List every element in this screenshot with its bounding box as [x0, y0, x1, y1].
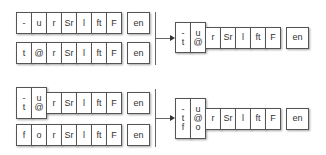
token-cell: r — [205, 108, 221, 130]
stacked-cell: - t f — [175, 98, 191, 139]
token-cell: ft — [250, 108, 266, 130]
token-cell: r — [205, 27, 221, 49]
token-cell: l — [76, 42, 92, 64]
token-cell: - — [16, 12, 32, 34]
token: f — [182, 123, 185, 132]
token-cell: Sr — [220, 108, 236, 130]
token-cell: Sr — [61, 42, 77, 64]
panel1-input-row2: t @ r Sr l ft F en — [17, 42, 150, 64]
stacked-cell: - t — [175, 22, 191, 53]
token-cell: l — [76, 12, 92, 34]
token-cell: o — [31, 124, 47, 146]
token-cell: F — [265, 108, 281, 130]
token-cell: t — [16, 42, 32, 64]
token-cell: r — [46, 12, 62, 34]
token-cell: r — [46, 124, 62, 146]
token-cell: l — [76, 124, 92, 146]
stacked-cell: - t — [16, 87, 32, 119]
token-cell: ft — [250, 27, 266, 49]
token-cell: l — [235, 108, 251, 130]
token-cell: Sr — [61, 12, 77, 34]
stacked-cell: u @ — [31, 87, 47, 119]
token-cell: Sr — [61, 124, 77, 146]
token-cell: r — [46, 92, 62, 114]
token: @ — [34, 103, 43, 112]
token: t — [23, 103, 26, 112]
token-cell: l — [235, 27, 251, 49]
end-cell: en — [286, 108, 309, 130]
token: @ — [193, 38, 202, 47]
token-cell: ft — [91, 124, 107, 146]
end-cell: en — [127, 92, 150, 114]
end-cell: en — [127, 124, 150, 146]
stacked-cell: u @ — [190, 22, 206, 53]
token-cell: f — [16, 124, 32, 146]
token-cell: F — [265, 27, 281, 49]
end-cell: en — [127, 12, 150, 34]
panel1-input-row1: - u r Sr l ft F en — [17, 12, 150, 34]
panel2-input-row1: - t u @ r Sr l ft F en — [17, 87, 150, 119]
token-cell: F — [106, 92, 122, 114]
token-cell: Sr — [61, 92, 77, 114]
panel2-output-row: - t f u @ o r Sr l ft F en — [176, 98, 309, 139]
token-cell: ft — [91, 42, 107, 64]
end-cell: en — [127, 42, 150, 64]
merge-line — [155, 38, 170, 39]
token-cell: Sr — [220, 27, 236, 49]
token-cell: F — [106, 124, 122, 146]
token-cell: ft — [91, 12, 107, 34]
token-cell: r — [46, 42, 62, 64]
merge-line — [155, 118, 170, 119]
token: o — [195, 123, 200, 132]
token-cell: F — [106, 42, 122, 64]
token-cell: F — [106, 12, 122, 34]
panel2-input-row2: f o r Sr l ft F en — [17, 124, 150, 146]
panel1-output-row: - t u @ r Sr l ft F en — [176, 22, 309, 53]
token: t — [182, 38, 185, 47]
token-cell: l — [76, 92, 92, 114]
token-cell: ft — [91, 92, 107, 114]
token-cell: @ — [31, 42, 47, 64]
token-cell: u — [31, 12, 47, 34]
end-cell: en — [286, 27, 309, 49]
stacked-cell: u @ o — [190, 98, 206, 139]
